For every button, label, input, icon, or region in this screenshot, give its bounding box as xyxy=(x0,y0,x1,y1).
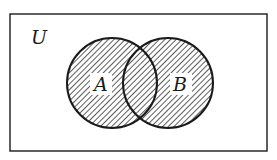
set-a-label: A xyxy=(92,73,108,95)
universe-label: U xyxy=(31,26,48,48)
venn-diagram: U A B xyxy=(0,0,277,160)
set-b-label: B xyxy=(172,73,187,95)
